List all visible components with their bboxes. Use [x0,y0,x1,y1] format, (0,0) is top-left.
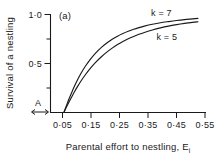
x-tick-label-0-45: 0·45 [167,120,186,130]
annotation-label-a: A [35,98,41,108]
x-tick-label-0-15: 0·15 [82,120,101,130]
series-label-k-7: k = 7 [151,8,172,18]
x-tick-label-0-55: 0·55 [196,120,215,130]
x-tick-label-0-25: 0·25 [110,120,129,130]
x-axis-title-subscript: i [189,147,191,154]
x-tick-label-0-05: 0·05 [53,120,72,130]
chart-canvas: 1·0 0·5 0·05 0·15 0·25 0·35 0·45 0·55 (a… [0,0,222,162]
x-axis-title: Parental effort to nestling, Ei [66,141,191,154]
x-axis-title-main: Parental effort to nestling, E [66,141,189,152]
series-label-k-5: k = 5 [156,32,177,42]
figure-panel-a: 1·0 0·5 0·05 0·15 0·25 0·35 0·45 0·55 (a… [0,0,222,162]
y-axis-title: Survival of a nestling [4,17,15,109]
y-tick-label-0-5: 0·5 [28,59,42,69]
curve-k-7 [64,18,198,112]
x-tick-label-0-35: 0·35 [139,120,158,130]
curve-k-5 [64,22,198,113]
panel-label: (a) [59,10,71,21]
annotation-arrow-a [32,110,49,115]
y-tick-label-1-0: 1·0 [28,10,42,20]
